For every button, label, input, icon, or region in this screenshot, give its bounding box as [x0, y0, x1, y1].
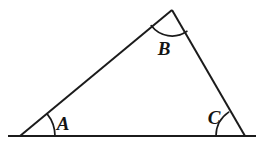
angle-label-c: C — [208, 107, 221, 128]
triangle-figure-canvas: Triangle with labeled interior angles A … — [0, 0, 264, 147]
triangle-figure: Triangle with labeled interior angles A … — [0, 0, 264, 147]
angle-arc-a — [47, 114, 55, 136]
side-ab — [20, 10, 172, 136]
angle-label-b: B — [157, 38, 171, 59]
angle-label-a: A — [56, 113, 70, 134]
